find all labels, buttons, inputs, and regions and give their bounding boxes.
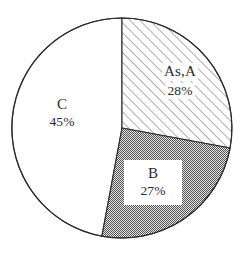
- pie-chart-canvas: [0, 0, 249, 259]
- pie-chart: C 45% As,A 28% B 27%: [0, 0, 249, 259]
- pie-slice-c: [12, 18, 122, 236]
- pie-slice-as-a: [122, 18, 232, 148]
- pie-slice-b: [102, 128, 230, 238]
